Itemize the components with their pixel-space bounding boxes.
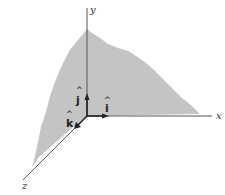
x-axis-label: x [216, 110, 222, 121]
k-vector-label: k [66, 117, 74, 130]
j-vector-label: j [75, 94, 80, 107]
y-axis-label: y [89, 4, 96, 15]
coordinate-diagram: y x z ^ j ^ i ^ k [0, 0, 225, 195]
z-axis-label: z [21, 180, 28, 191]
i-vector-label: i [105, 102, 109, 115]
